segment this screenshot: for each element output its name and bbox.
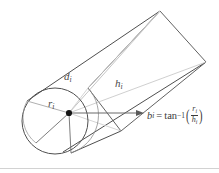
equation-denominator-subscript: i (196, 119, 198, 125)
equation-function-name: tan (164, 110, 177, 121)
apex-dot (66, 110, 72, 116)
angle-arrow (69, 110, 144, 116)
equation-open-paren: ( (186, 107, 190, 124)
figure-canvas (0, 0, 219, 173)
radius-lower-left (36, 113, 69, 143)
base-sector (23, 88, 98, 153)
base-circle-outline (22, 88, 88, 154)
equation-numerator-subscript: i (195, 108, 197, 114)
label-axis-h: hi (115, 78, 123, 91)
equation-equals: = (156, 110, 162, 121)
equation-numerator: ri (191, 105, 198, 114)
label-radius-subscript: i (52, 102, 54, 111)
equation-denominator: hi (191, 116, 199, 125)
cone-base-circle (22, 88, 88, 154)
equation-close-paren: ) (199, 107, 203, 124)
equation-lhs-subscript: i (152, 111, 154, 120)
lower-ray-line (69, 113, 121, 131)
slant-line-d (69, 11, 160, 113)
angle-equation: bi = tan−1 ( ri hi ) (147, 105, 204, 126)
radius-lower (69, 113, 71, 153)
label-axis-subscript: i (121, 82, 123, 91)
label-slant-subscript: i (70, 75, 72, 84)
far-face-upper-left-edge (88, 11, 160, 88)
apex-point (66, 110, 72, 116)
equation-fraction: ri hi (191, 105, 199, 126)
equation-exponent: −1 (177, 111, 185, 120)
bottom-divider (0, 168, 219, 169)
label-slant-d: di (64, 71, 72, 84)
label-radius-r: ri (48, 98, 54, 111)
cone-upper-edge (27, 11, 160, 101)
cone-angle-figure: di hi ri bi = tan−1 ( ri hi ) (0, 0, 219, 173)
